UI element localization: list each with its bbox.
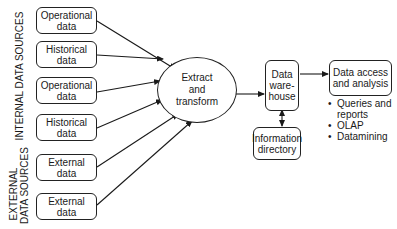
source-label: Operational [41, 80, 93, 91]
source-label: External [48, 196, 85, 207]
internal-sources-text: INTERNAL DATA SOURCES [14, 12, 25, 141]
source-box-operational-2: Operational data [36, 77, 97, 104]
source-box-historical-1: Historical data [36, 41, 97, 68]
source-label: data [57, 128, 76, 139]
directory-label: directory [258, 144, 296, 155]
analysis-item-olap: OLAP [328, 120, 391, 131]
source-label: Operational [41, 10, 93, 21]
external-sources-text-2: DATA SOURCES [19, 164, 30, 224]
data-access-analysis-box: Data access and analysis [329, 60, 392, 96]
source-label: data [57, 207, 76, 218]
source-box-operational-1: Operational data [36, 7, 97, 34]
source-label: External [48, 157, 85, 168]
external-sources-text-1: EXTERNAL [8, 164, 19, 224]
etl-label: and [189, 84, 206, 96]
analysis-item-text: reports [337, 109, 391, 120]
internal-sources-label: INTERNAL DATA SOURCES [14, 6, 25, 146]
warehouse-label: house [268, 91, 295, 102]
analysis-item-text: OLAP [337, 120, 391, 131]
analysis-item-text: Datamining [337, 131, 391, 142]
access-label: and analysis [333, 78, 389, 89]
extract-transform-node: Extract and transform [157, 57, 237, 123]
analysis-methods-list: Queries and reports OLAP Datamining [328, 98, 391, 142]
analysis-item-datamining: Datamining [328, 131, 391, 142]
access-label: Data access [333, 67, 388, 78]
arrow-source4-to-etl [97, 100, 162, 128]
external-sources-label: EXTERNAL DATA SOURCES [8, 164, 30, 224]
source-box-external-2: External data [36, 193, 97, 220]
analysis-item-queries: Queries and reports [328, 98, 391, 120]
source-label: data [57, 55, 76, 66]
directory-label: Information [252, 133, 302, 144]
source-label: data [57, 21, 76, 32]
warehouse-label: Data [271, 69, 292, 80]
arrow-source1-to-etl [97, 21, 175, 69]
etl-label: transform [176, 96, 218, 108]
analysis-item-text: Queries and [337, 98, 391, 109]
arrow-source6-to-etl [97, 121, 192, 205]
arrow-source3-to-etl [97, 81, 160, 92]
data-warehouse-box: Data ware- house [265, 60, 299, 111]
source-label: data [57, 168, 76, 179]
source-label: data [57, 91, 76, 102]
arrow-source5-to-etl [97, 114, 178, 167]
source-label: Historical [46, 117, 87, 128]
information-directory-box: Information directory [253, 127, 301, 160]
source-label: Historical [46, 44, 87, 55]
etl-label: Extract [181, 72, 212, 84]
source-box-historical-2: Historical data [36, 114, 97, 141]
warehouse-label: ware- [269, 80, 294, 91]
source-box-external-1: External data [36, 154, 97, 181]
